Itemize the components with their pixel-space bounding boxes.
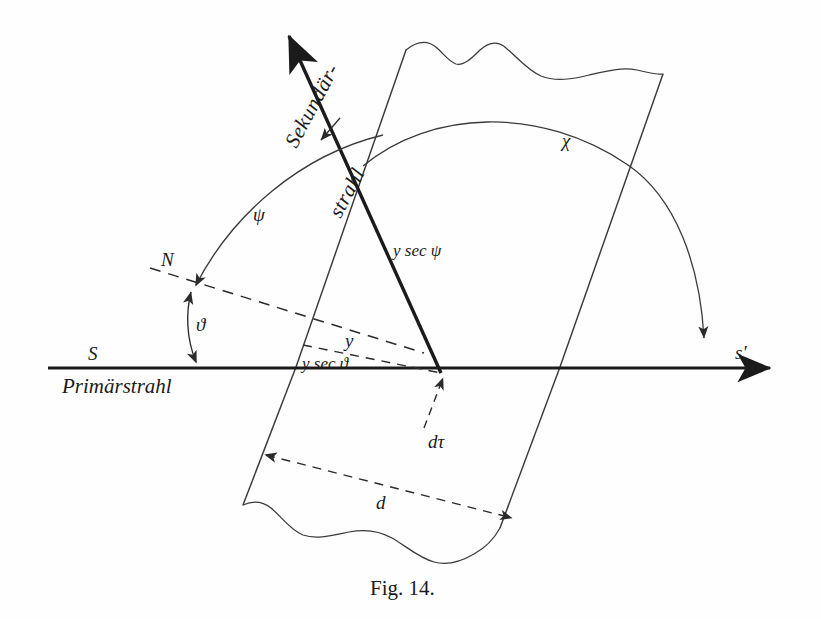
- figure-caption: Fig. 14.: [370, 578, 435, 599]
- volume-element-label: dτ: [428, 432, 444, 451]
- axis-label-s: S: [88, 344, 98, 363]
- slab-bottom-wavy-edge: [243, 502, 500, 563]
- length-y-label: y: [345, 331, 353, 350]
- angle-theta-label: ϑ: [196, 315, 205, 334]
- slab-right-edge-lower: [500, 367, 560, 528]
- length-y-sec-theta-label: y sec ϑ: [302, 355, 348, 372]
- normal-dashed-line: [150, 268, 424, 353]
- slab-right-edge-upper: [560, 74, 663, 367]
- figure-drawing: [0, 0, 821, 619]
- angle-chi-arc: [363, 122, 704, 338]
- angle-chi-label: χ: [562, 131, 570, 150]
- normal-label-n: N: [161, 250, 174, 269]
- thickness-d-label: d: [376, 493, 386, 512]
- thickness-d-dimension: [266, 455, 512, 518]
- figure-container: Sekundär- strahl Primärstrahl S s' N ϑ ψ…: [0, 0, 821, 619]
- length-y-sec-psi-label: y sec ψ: [393, 242, 441, 259]
- slab-left-edge-lower: [243, 367, 296, 505]
- slab-top-wavy-edge: [406, 43, 663, 80]
- angle-psi-arc-head: [321, 118, 340, 140]
- dtau-pointer-arrow: [424, 378, 443, 428]
- angle-psi-label: ψ: [253, 205, 265, 224]
- axis-label-s-prime: s': [735, 343, 746, 362]
- primary-ray-label: Primärstrahl: [62, 376, 172, 397]
- angle-theta-arc: [188, 292, 196, 362]
- angle-psi-arc: [196, 135, 383, 285]
